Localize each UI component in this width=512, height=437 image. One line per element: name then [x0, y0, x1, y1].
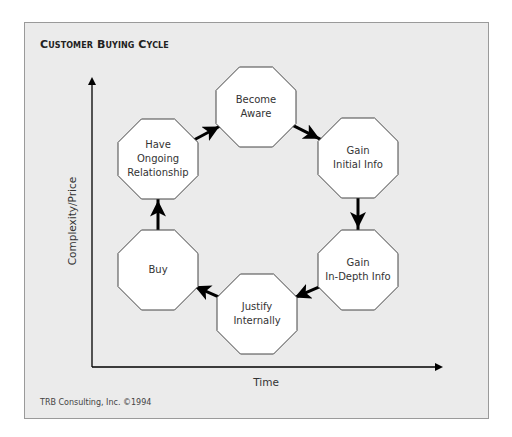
node-label-justify-internally: JustifyInternally	[217, 300, 297, 328]
node-label-line: Become	[216, 93, 296, 107]
connector-line	[290, 124, 323, 141]
node-label-line: Aware	[216, 107, 296, 121]
copyright-credit: TRB Consulting, Inc. ©1994	[40, 398, 151, 407]
x-axis-label: Time	[253, 376, 279, 388]
node-label-become-aware: BecomeAware	[216, 93, 296, 121]
node-label-line: Justify	[217, 300, 297, 314]
node-label-gain-initial-info: GainInitial Info	[318, 144, 398, 172]
node-label-gain-in-depth-info: GainIn-Depth Info	[318, 256, 398, 284]
node-label-line: Internally	[217, 314, 297, 328]
node-label-line: Ongoing	[118, 152, 198, 166]
node-label-line: Have	[118, 138, 198, 152]
node-label-buy: Buy	[118, 263, 198, 277]
node-label-line: In-Depth Info	[318, 270, 398, 284]
node-label-line: Relationship	[118, 166, 198, 180]
y-axis-label: Complexity/Price	[66, 177, 78, 265]
node-label-line: Initial Info	[318, 158, 398, 172]
node-label-line: Buy	[118, 263, 198, 277]
node-label-have-ongoing-relationship: HaveOngoingRelationship	[118, 138, 198, 180]
node-label-line: Gain	[318, 256, 398, 270]
node-label-line: Gain	[318, 144, 398, 158]
